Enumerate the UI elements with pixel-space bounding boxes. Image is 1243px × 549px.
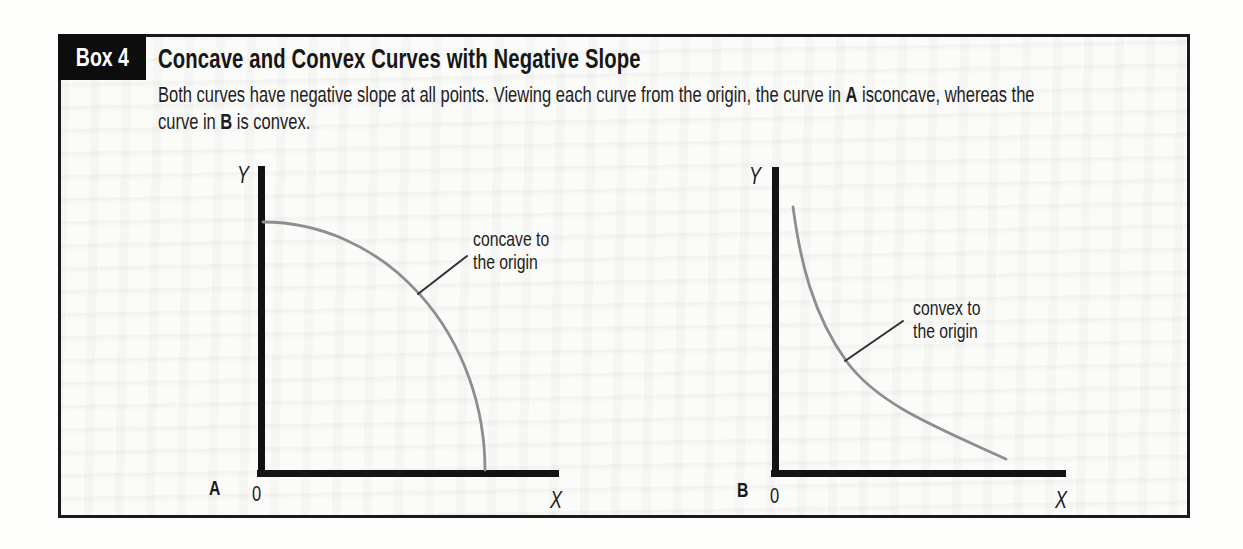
- annotation-pointer-line-b: [845, 321, 903, 361]
- box-tag-label: Box 4: [75, 42, 128, 73]
- scanned-page: Box 4 Concave and Convex Curves with Neg…: [0, 0, 1243, 549]
- annotation-pointer-line-a: [418, 256, 467, 294]
- curves-layer: [61, 37, 1187, 515]
- figure-box: Box 4 Concave and Convex Curves with Neg…: [58, 34, 1190, 518]
- curve-convex-b: [793, 207, 1006, 459]
- box-tag: Box 4: [58, 34, 146, 80]
- curve-concave-a: [263, 222, 485, 470]
